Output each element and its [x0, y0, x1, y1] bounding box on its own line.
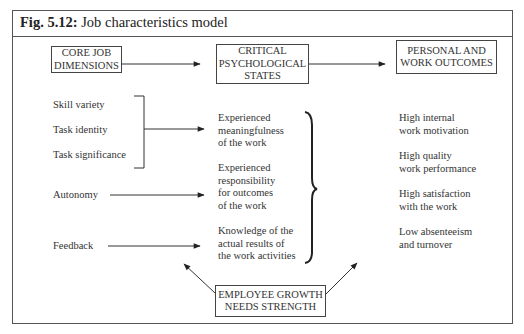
outcome-line: work performance — [399, 163, 476, 176]
state-line: for outcomes — [218, 187, 275, 200]
figure-title-text: Job characteristics model — [81, 14, 228, 30]
state-line: Knowledge of the — [218, 225, 296, 238]
dimension-task-significance: Task significance — [53, 149, 126, 162]
state-line: responsibility — [218, 175, 275, 188]
state-line: Experienced — [218, 162, 275, 175]
state-line: meaningfulness — [218, 125, 284, 138]
personal-work-outcomes-box: PERSONAL AND WORK OUTCOMES — [396, 40, 497, 74]
outcome-performance: High quality work performance — [399, 150, 476, 175]
outcome-line: High quality — [399, 150, 476, 163]
state-line: Experienced — [218, 112, 284, 125]
core-job-dimensions-box: CORE JOB DIMENSIONS — [51, 46, 122, 73]
box-line: STATES — [244, 70, 281, 83]
box-line: NEEDS STRENGTH — [225, 301, 316, 314]
outcome-satisfaction: High satisfaction with the work — [399, 188, 470, 213]
box-line: CRITICAL — [238, 45, 286, 58]
critical-states-box: CRITICAL PSYCHOLOGICAL STATES — [216, 44, 309, 84]
state-line: actual results of — [218, 238, 296, 251]
outcome-line: with the work — [399, 201, 470, 214]
outcome-line: High satisfaction — [399, 188, 470, 201]
outcome-line: Low absenteeism — [399, 226, 472, 239]
outcome-line: and turnover — [399, 239, 472, 252]
state-line: of the work — [218, 137, 284, 150]
state-knowledge-of-results: Knowledge of the actual results of the w… — [218, 225, 296, 263]
outcome-line: High internal — [399, 112, 469, 125]
dimension-skill-variety: Skill variety — [53, 99, 105, 112]
outcome-motivation: High internal work motivation — [399, 112, 469, 137]
state-line: the work activities — [218, 250, 296, 263]
dimension-autonomy: Autonomy — [53, 189, 98, 202]
box-line: PERSONAL AND — [407, 45, 486, 58]
state-meaningfulness: Experienced meaningfulness of the work — [218, 112, 284, 150]
state-line: of the work — [218, 200, 275, 213]
growth-needs-strength-box: EMPLOYEE GROWTH NEEDS STRENGTH — [215, 285, 326, 317]
box-line: DIMENSIONS — [54, 60, 119, 73]
dimension-feedback: Feedback — [53, 240, 93, 253]
outcome-absenteeism: Low absenteeism and turnover — [399, 226, 472, 251]
dimension-task-identity: Task identity — [53, 124, 107, 137]
outcome-line: work motivation — [399, 125, 469, 138]
state-responsibility: Experienced responsibility for outcomes … — [218, 162, 275, 212]
figure-title: Fig. 5.12: Job characteristics model — [20, 14, 228, 31]
box-line: WORK OUTCOMES — [400, 57, 492, 70]
box-line: PSYCHOLOGICAL — [219, 58, 307, 71]
box-line: CORE JOB — [62, 47, 111, 60]
figure-number: Fig. 5.12: — [20, 14, 78, 30]
box-line: EMPLOYEE GROWTH — [218, 289, 323, 302]
